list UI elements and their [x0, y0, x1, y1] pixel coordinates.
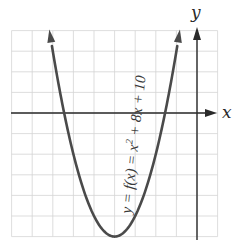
y-axis-arrow-icon — [193, 27, 201, 40]
x-axis-label: x — [222, 102, 232, 122]
x-axis-arrow-icon — [205, 109, 217, 117]
curve-arrow-left-icon — [47, 30, 55, 43]
equation-suffix: + 8x + 10 — [126, 74, 149, 140]
curve-arrow-right-icon — [174, 30, 182, 43]
function-graph: x y y = f(x) = x2 + 8x + 10 — [0, 0, 235, 246]
y-axis-label: y — [190, 2, 201, 22]
grid — [12, 31, 218, 237]
